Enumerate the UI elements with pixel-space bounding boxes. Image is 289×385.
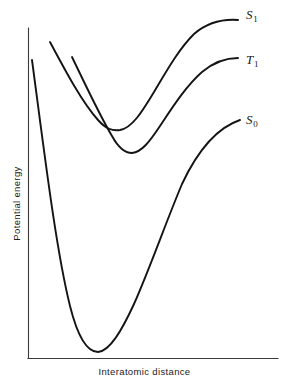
x-axis-title: Interatomic distance xyxy=(0,366,289,377)
curve-s1 xyxy=(50,20,238,130)
curve-t1 xyxy=(72,57,238,153)
curve-label-s1-base: S xyxy=(246,7,253,22)
curve-s0 xyxy=(32,60,240,352)
curve-label-s0-base: S xyxy=(246,112,253,127)
curve-label-s0: S0 xyxy=(246,112,257,128)
curve-label-s0-sub: 0 xyxy=(253,119,258,129)
curve-label-t1: T1 xyxy=(246,52,258,68)
axes-group xyxy=(28,28,278,359)
potential-energy-diagram: S1 T1 S0 Interatomic distance Potential … xyxy=(0,0,289,385)
curve-label-s1: S1 xyxy=(246,7,257,23)
curve-label-s1-sub: 1 xyxy=(253,14,258,24)
curve-label-t1-base: T xyxy=(246,52,253,67)
y-axis-title: Potential energy xyxy=(11,144,22,264)
curves-group xyxy=(32,20,240,352)
curve-label-t1-sub: 1 xyxy=(254,59,259,69)
